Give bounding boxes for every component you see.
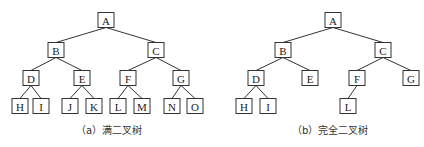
svg-text:H: H [16,101,24,113]
tree-node-A: A [325,13,341,28]
tree-node-D: D [23,71,39,86]
edge-D-H [20,86,31,99]
tree-node-O: O [187,99,203,114]
edge-G-N [172,86,181,99]
edge-E-J [70,86,82,99]
tree-nodes: ABCDEFGHIJKLMNOABCDEFGHIL [12,13,419,114]
edge-D-I [31,86,41,99]
edge-D-H [244,86,256,99]
svg-text:N: N [168,101,176,113]
svg-text:C: C [152,45,159,57]
edge-D-I [256,86,268,99]
tree-node-E: E [74,71,90,86]
edge-B-E [283,58,310,71]
tree-node-E: E [302,71,318,86]
tree-node-J: J [62,99,78,114]
edge-C-G [383,58,411,71]
edge-A-C [333,28,383,43]
tree-node-L: L [340,99,356,114]
tree-node-N: N [164,99,180,114]
svg-text:O: O [191,101,199,113]
svg-text:M: M [137,101,147,113]
svg-text:F: F [125,73,131,85]
tree-node-G: G [173,71,189,86]
edge-C-G [156,58,181,71]
edge-F-L [118,86,128,99]
edge-B-D [31,58,56,71]
edge-G-O [181,86,195,99]
svg-text:D: D [27,73,35,85]
tree-node-B: B [48,43,64,58]
tree-node-K: K [86,99,102,114]
tree-node-F: F [120,71,136,86]
tree-node-M: M [134,99,150,114]
svg-text:K: K [90,101,98,113]
tree-node-H: H [12,99,28,114]
tree-node-F: F [349,71,365,86]
edge-B-D [256,58,283,71]
svg-text:F: F [354,73,360,85]
tree-node-I: I [33,99,49,114]
caption-full-binary-tree: （a）满二叉树 [76,122,142,137]
tree-node-A: A [98,13,114,28]
svg-text:E: E [307,73,314,85]
svg-text:G: G [407,73,415,85]
svg-text:I: I [266,101,270,113]
svg-text:J: J [68,101,73,113]
edge-C-F [357,58,383,71]
edge-C-F [128,58,156,71]
svg-text:A: A [329,15,337,27]
caption-complete-binary-tree: （b）完全二叉树 [292,122,368,137]
svg-text:E: E [79,73,86,85]
svg-text:G: G [177,73,185,85]
tree-edges [20,28,411,99]
edge-A-C [106,28,156,43]
edge-F-L [348,86,357,99]
svg-text:B: B [52,45,59,57]
svg-text:D: D [252,73,260,85]
svg-text:C: C [379,45,386,57]
svg-text:L: L [115,101,122,113]
tree-node-I: I [260,99,276,114]
svg-text:A: A [102,15,110,27]
edge-F-M [128,86,142,99]
edge-B-E [56,58,82,71]
svg-text:L: L [345,101,352,113]
svg-text:H: H [240,101,248,113]
edge-E-K [82,86,94,99]
svg-text:I: I [39,101,43,113]
tree-node-G: G [403,71,419,86]
edge-A-B [56,28,106,43]
tree-node-H: H [236,99,252,114]
tree-node-B: B [275,43,291,58]
tree-node-C: C [148,43,164,58]
svg-text:B: B [279,45,286,57]
tree-node-D: D [248,71,264,86]
tree-node-C: C [375,43,391,58]
edge-A-B [283,28,333,43]
tree-node-L: L [110,99,126,114]
